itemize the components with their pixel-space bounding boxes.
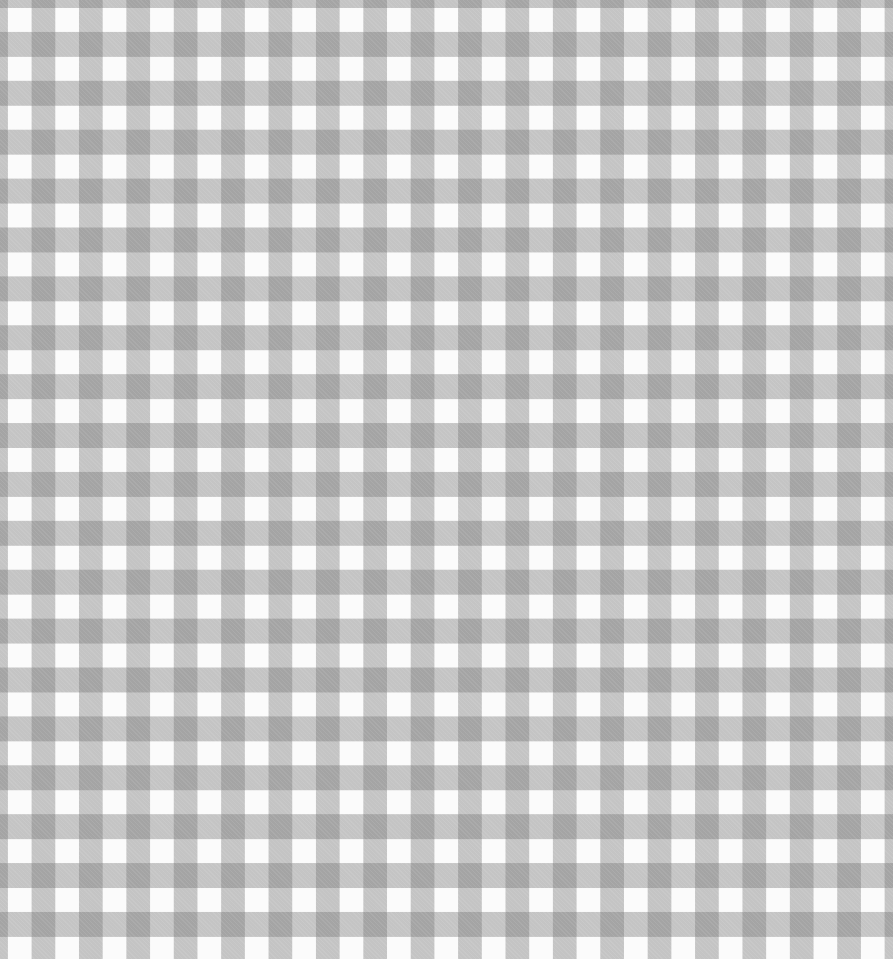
gingham-fabric-pattern: [0, 0, 893, 959]
weave-texture: [0, 0, 893, 959]
